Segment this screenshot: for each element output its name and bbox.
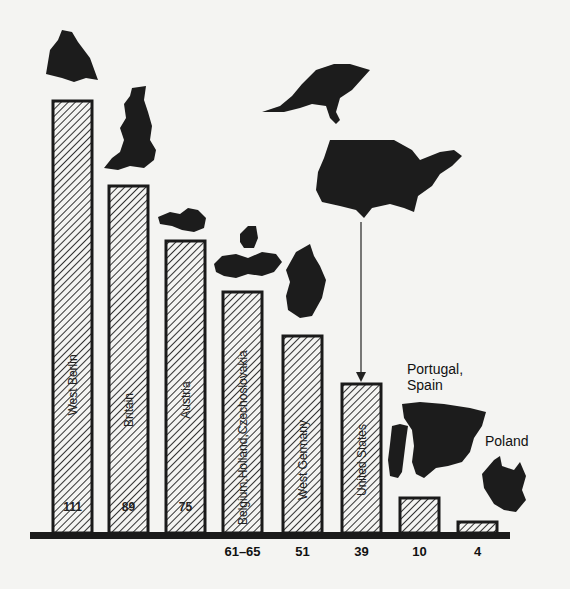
bar: 10 — [400, 498, 439, 559]
annotation-portugal-line1: Portugal, — [407, 361, 463, 377]
x-axis-baseline — [30, 532, 510, 539]
bar-rect — [458, 522, 497, 533]
bar-value-label: 111 — [63, 500, 82, 514]
annotation-portugal-line2: Spain — [407, 377, 443, 393]
bar-rect — [53, 101, 92, 533]
us-arrow — [356, 222, 366, 382]
bar-value-label: 51 — [295, 544, 309, 559]
bar-rect — [400, 498, 439, 533]
west-berlin-map-icon — [46, 30, 98, 82]
bar: Britain89 — [109, 186, 148, 533]
britain-map-icon — [104, 86, 156, 170]
portugal-map-icon — [388, 424, 408, 478]
bar-value-label: 4 — [474, 544, 482, 559]
bar-category-label: West Berlin — [66, 354, 80, 415]
alaska-map-icon — [262, 64, 370, 124]
bar-value-label: 89 — [122, 500, 136, 514]
belgium-czech-map-icon — [214, 252, 282, 278]
annotation-poland: Poland — [485, 433, 529, 449]
bar-chart: West Berlin111Britain89Austria75Belgium,… — [0, 0, 570, 589]
austria-map-icon — [158, 208, 206, 232]
bar: 4 — [458, 522, 497, 559]
bar-category-label: West Germany — [296, 420, 310, 500]
bar: Belgium,Holland,Czechoslovakia61–65 — [223, 292, 262, 559]
bar: Austria75 — [166, 241, 205, 533]
west-germany-map-icon — [286, 244, 326, 318]
bar-value-label: 39 — [354, 544, 368, 559]
bar-value-label: 10 — [412, 544, 426, 559]
bar: West Berlin111 — [53, 101, 92, 533]
us-map-icon — [316, 140, 462, 218]
bar-category-label: United States — [355, 424, 369, 496]
spain-map-icon — [402, 402, 486, 478]
bar-category-label: Britain — [122, 393, 136, 427]
poland-map-icon — [482, 456, 526, 512]
bar-category-label: Belgium,Holland,Czechoslovakia — [236, 350, 250, 525]
bar-value-label: 61–65 — [224, 544, 260, 559]
bar-value-label: 75 — [179, 500, 193, 514]
bar: West Germany51 — [283, 336, 322, 559]
bar-category-label: Austria — [179, 381, 193, 419]
bar-rect — [109, 186, 148, 533]
holland-map-icon — [240, 226, 258, 248]
